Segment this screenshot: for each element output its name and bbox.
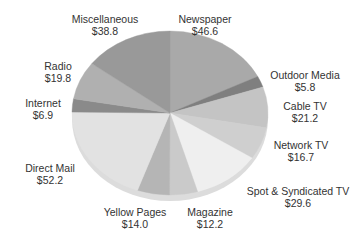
slice-label-value: $52.2: [25, 174, 75, 186]
slice-label-spot-syndicated-tv: Spot & Syndicated TV$29.6: [247, 185, 350, 209]
slice-label-newspaper: Newspaper$46.6: [178, 13, 231, 37]
slice-label-name: Magazine: [187, 206, 233, 218]
slice-label-name: Radio: [44, 60, 71, 72]
slice-label-value: $14.0: [104, 218, 167, 230]
slice-label-name: Internet: [25, 97, 61, 109]
pie-slices: [72, 31, 268, 195]
slice-label-name: Cable TV: [283, 100, 327, 112]
slice-label-magazine: Magazine$12.2: [187, 206, 233, 230]
slice-label-direct-mail: Direct Mail$52.2: [25, 162, 75, 186]
slice-label-name: Spot & Syndicated TV: [247, 185, 350, 197]
slice-label-value: $5.8: [270, 81, 339, 93]
slice-label-name: Yellow Pages: [104, 206, 167, 218]
slice-label-value: $6.9: [25, 109, 61, 121]
slice-label-name: Miscellaneous: [72, 13, 139, 25]
slice-label-value: $19.8: [44, 72, 71, 84]
slice-label-name: Direct Mail: [25, 162, 75, 174]
slice-label-value: $21.2: [283, 112, 327, 124]
slice-label-radio: Radio$19.8: [44, 60, 71, 84]
slice-label-network-tv: Network TV$16.7: [274, 139, 329, 163]
slice-label-value: $16.7: [274, 151, 329, 163]
slice-label-value: $38.8: [72, 25, 139, 37]
slice-label-name: Newspaper: [178, 13, 231, 25]
slice-label-name: Network TV: [274, 139, 329, 151]
slice-label-value: $46.6: [178, 25, 231, 37]
slice-label-yellow-pages: Yellow Pages$14.0: [104, 206, 167, 230]
slice-label-miscellaneous: Miscellaneous$38.8: [72, 13, 139, 37]
slice-label-name: Outdoor Media: [270, 69, 339, 81]
slice-label-value: $29.6: [247, 197, 350, 209]
slice-label-value: $12.2: [187, 218, 233, 230]
slice-label-outdoor-media: Outdoor Media$5.8: [270, 69, 339, 93]
slice-label-internet: Internet$6.9: [25, 97, 61, 121]
slice-label-cable-tv: Cable TV$21.2: [283, 100, 327, 124]
